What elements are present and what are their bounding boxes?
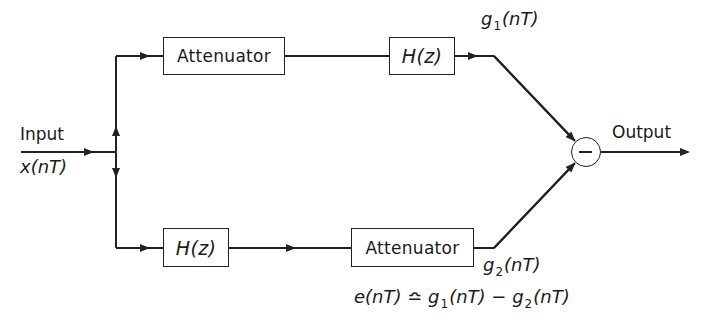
equation-t2-sub: 2: [525, 297, 533, 311]
g2-arg: (nT): [504, 254, 540, 275]
input-label: Input: [20, 124, 64, 144]
equation-t1-sub: 1: [441, 297, 449, 311]
g1-subscript: 1: [493, 19, 501, 33]
equation-op: −: [486, 286, 513, 307]
input-signal-label: x(nT): [20, 156, 67, 177]
g2-signal-label: g2(nT): [483, 254, 541, 275]
equation-t2-arg: (nT): [533, 286, 569, 307]
g1-base: g: [481, 8, 492, 29]
minus-icon: [579, 151, 592, 153]
bottom-attenuator-block: Attenuator: [351, 228, 474, 267]
equation-t1-arg: (nT): [449, 286, 485, 307]
signal-lines: [0, 0, 710, 335]
top-transfer-function-block: H(z): [389, 37, 455, 75]
equation-lhs: e(nT) ≏: [354, 286, 428, 307]
g1-arg: (nT): [502, 8, 538, 29]
bottom-transfer-function-block: H(z): [163, 228, 229, 267]
g2-base: g: [483, 254, 494, 275]
equation-t2-base: g: [512, 286, 523, 307]
equation-t1-base: g: [428, 286, 439, 307]
g2-subscript: 2: [495, 265, 503, 279]
g1-signal-label: g1(nT): [481, 8, 539, 29]
top-attenuator-block: Attenuator: [163, 37, 285, 75]
error-equation: e(nT) ≏ g1(nT) − g2(nT): [354, 286, 570, 307]
output-label: Output: [612, 122, 671, 142]
summing-junction: [571, 137, 601, 167]
